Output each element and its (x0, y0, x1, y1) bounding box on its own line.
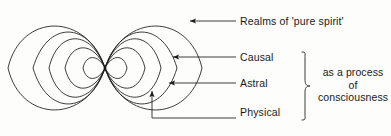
group-note-line-1: as a process (315, 66, 391, 79)
group-note-line-2: of (315, 79, 391, 92)
lemniscate-loops (8, 26, 202, 110)
label-astral: Astral (240, 77, 268, 89)
loop-left-4 (33, 32, 105, 104)
diagram-page: Realms of 'pure spirit' Causal Astral Ph… (0, 0, 391, 136)
group-note-as-a-process-of-consciousness: as a process of consciousness (315, 66, 391, 104)
leader-line-physical (152, 91, 236, 118)
grouping-brace (302, 52, 310, 120)
right-lobe-loops (105, 26, 202, 110)
label-physical: Physical (240, 106, 280, 118)
left-lobe-loops (8, 26, 105, 110)
loop-left-5 (8, 26, 105, 110)
label-causal: Causal (240, 51, 274, 63)
loop-right-3 (105, 39, 161, 98)
loop-left-3 (49, 39, 105, 98)
label-realms-of-pure-spirit: Realms of 'pure spirit' (240, 15, 344, 27)
leader-lines (152, 21, 236, 118)
loop-right-5 (105, 26, 202, 110)
center-node (104, 67, 107, 70)
group-note-line-3: consciousness (315, 91, 391, 104)
loop-right-4 (105, 32, 177, 104)
